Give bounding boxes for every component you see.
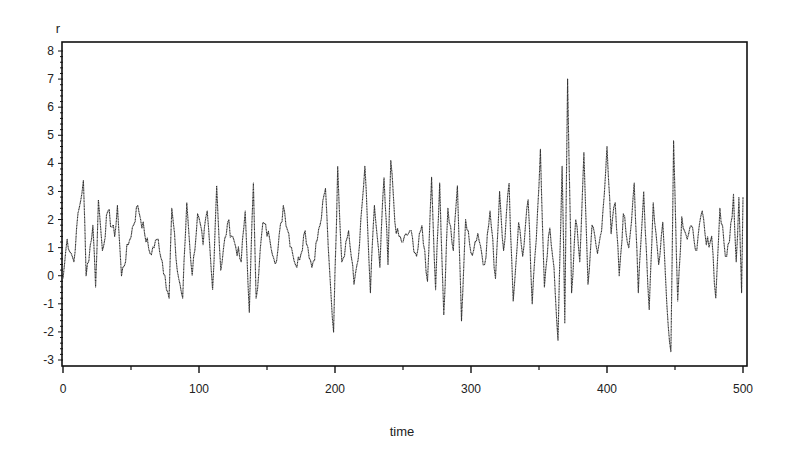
y-tick-label: 4	[47, 156, 54, 170]
y-tick-label: -1	[43, 297, 54, 311]
y-tick-label: 7	[47, 72, 54, 86]
y-tick-label: 0	[47, 269, 54, 283]
y-tick-label: -2	[43, 325, 54, 339]
y-axis-title: r	[56, 21, 61, 36]
x-tick-label: 0	[60, 382, 67, 396]
time-series-chart: -3-2-1012345678 0100200300400500 r time	[0, 0, 790, 461]
x-axis-title: time	[390, 424, 415, 439]
y-tick-label: 5	[47, 128, 54, 142]
y-tick-label: -3	[43, 353, 54, 367]
y-tick-label: 1	[47, 241, 54, 255]
x-tick-label: 400	[597, 382, 617, 396]
x-tick-label: 100	[189, 382, 209, 396]
y-tick-label: 6	[47, 100, 54, 114]
y-tick-label: 8	[47, 44, 54, 58]
y-tick-label: 3	[47, 184, 54, 198]
x-tick-label: 200	[325, 382, 345, 396]
y-tick-label: 2	[47, 213, 54, 227]
x-tick-label: 500	[733, 382, 753, 396]
x-tick-label: 300	[461, 382, 481, 396]
